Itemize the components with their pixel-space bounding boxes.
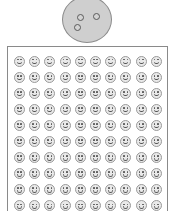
face-eye-left: [63, 91, 65, 93]
grid-face-item: [29, 88, 40, 99]
grid-face-item: [29, 152, 40, 163]
face-eye-left: [108, 155, 110, 157]
grid-face-item: [90, 104, 101, 115]
grid-face-item: [75, 120, 86, 131]
face-mouth: [63, 158, 68, 160]
face-mouth: [17, 142, 22, 144]
grid-face-item: [60, 168, 71, 179]
face-eye-left: [139, 91, 141, 93]
grid-face-item: [90, 168, 101, 179]
face-mouth: [93, 78, 98, 80]
face-eye-left: [123, 123, 125, 125]
grid-face-item: [120, 72, 131, 83]
grid-face-item: [75, 200, 86, 211]
face-eye-right: [66, 204, 68, 206]
grid-face-item: [90, 120, 101, 131]
face-eye-right: [81, 187, 83, 189]
face-eye-right: [96, 204, 98, 206]
face-mouth: [123, 142, 128, 144]
face-eye-right: [66, 59, 68, 61]
face-eye-left: [78, 75, 80, 77]
face-eye-left: [93, 171, 95, 173]
face-eye-left: [17, 107, 19, 109]
grid-face-item: [60, 72, 71, 83]
grid-face-item: [29, 200, 40, 211]
face-mouth: [32, 110, 37, 112]
face-eye-right: [20, 204, 22, 206]
face-eye-left: [93, 187, 95, 189]
grid-face-item: [136, 88, 147, 99]
face-eye-right: [157, 204, 159, 206]
face-eye-left: [139, 123, 141, 125]
face-eye-left: [32, 59, 34, 61]
face-mouth: [93, 142, 98, 144]
face-mouth: [47, 206, 52, 208]
face-eye-right: [127, 123, 129, 125]
face-mouth: [139, 142, 144, 144]
face-mouth: [32, 190, 37, 192]
face-eye-left: [63, 75, 65, 77]
face-eye-right: [81, 171, 83, 173]
face-eye-left: [93, 107, 95, 109]
face-eye-right: [96, 91, 98, 93]
face-mouth: [78, 142, 83, 144]
grid-face-item: [105, 88, 116, 99]
face-eye-left: [63, 59, 65, 61]
face-mouth: [32, 174, 37, 176]
face-eye-right: [142, 187, 144, 189]
face-eye-right: [157, 155, 159, 157]
face-eye-right: [81, 204, 83, 206]
face-eye-left: [108, 187, 110, 189]
grid-face-item: [14, 72, 25, 83]
face-eye-right: [81, 107, 83, 109]
face-mouth: [78, 62, 83, 64]
face-mouth: [93, 190, 98, 192]
face-mouth: [47, 190, 52, 192]
face-mouth: [139, 78, 144, 80]
face-eye-right: [66, 123, 68, 125]
magnified-specimen-dot-lower-left: [74, 24, 81, 31]
face-eye-right: [112, 75, 114, 77]
specimen-grid: [12, 53, 165, 211]
face-eye-left: [139, 155, 141, 157]
face-eye-right: [142, 204, 144, 206]
face-mouth: [17, 158, 22, 160]
grid-face-item: [136, 152, 147, 163]
face-mouth: [78, 190, 83, 192]
face-eye-right: [96, 75, 98, 77]
face-eye-right: [157, 91, 159, 93]
grid-face-item: [120, 168, 131, 179]
face-mouth: [78, 158, 83, 160]
face-eye-right: [51, 107, 53, 109]
face-mouth: [17, 126, 22, 128]
face-mouth: [139, 158, 144, 160]
magnified-specimen-dot-upper-left: [77, 14, 84, 21]
face-eye-right: [112, 171, 114, 173]
face-eye-right: [127, 171, 129, 173]
grid-face-item: [151, 88, 162, 99]
face-eye-right: [112, 204, 114, 206]
grid-face-item: [75, 104, 86, 115]
grid-face-item: [60, 104, 71, 115]
face-eye-left: [17, 139, 19, 141]
grid-face-item: [120, 152, 131, 163]
grid-face-item: [44, 136, 55, 147]
grid-face-item: [29, 136, 40, 147]
face-mouth: [63, 78, 68, 80]
face-mouth: [17, 62, 22, 64]
face-eye-right: [66, 91, 68, 93]
face-mouth: [93, 158, 98, 160]
face-mouth: [17, 174, 22, 176]
face-mouth: [123, 94, 128, 96]
face-mouth: [154, 158, 159, 160]
grid-face-item: [136, 136, 147, 147]
face-eye-left: [47, 75, 49, 77]
face-eye-right: [142, 91, 144, 93]
face-eye-left: [32, 75, 34, 77]
face-mouth: [108, 158, 113, 160]
grid-face-item: [44, 152, 55, 163]
face-eye-left: [63, 204, 65, 206]
face-eye-left: [139, 59, 141, 61]
face-eye-left: [139, 75, 141, 77]
face-eye-left: [78, 91, 80, 93]
